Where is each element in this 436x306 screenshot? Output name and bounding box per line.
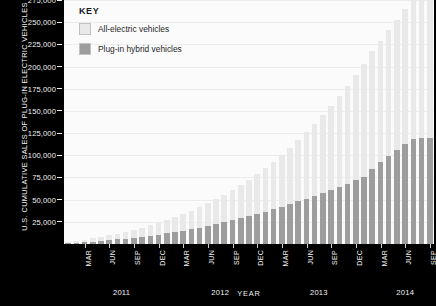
x-axis-tick-label: SEP (133, 250, 140, 265)
legend: KEY All-electric vehicles Plug-in hybrid… (75, 2, 182, 63)
y-axis-tick-mark (57, 221, 62, 222)
bar-segment-plug-in-hybrid (337, 187, 343, 244)
y-axis-tick-label: 100,000 (28, 151, 56, 160)
bar-segment-all-electric (337, 96, 343, 187)
bar-segment-plug-in-hybrid (295, 201, 301, 244)
x-axis-tick-label: MAR (84, 250, 91, 266)
x-axis-tick-mark (405, 244, 406, 248)
bar-column (302, 0, 310, 244)
bar-segment-all-electric (312, 124, 318, 196)
bar-segment-plug-in-hybrid (205, 226, 211, 244)
x-axis-tick-label: SEP (331, 250, 338, 265)
y-axis-tick-label: 275,000 (28, 0, 56, 5)
bar-segment-all-electric (427, 0, 433, 138)
x-axis-tick-label: JUN (207, 250, 214, 265)
bar-column (253, 0, 261, 244)
bar-segment-all-electric (197, 207, 203, 227)
y-axis-tick-mark (57, 66, 62, 67)
bar-segment-plug-in-hybrid (353, 180, 359, 244)
bar-segment-all-electric (304, 132, 310, 198)
bar-segment-plug-in-hybrid (320, 193, 326, 244)
bar-segment-plug-in-hybrid (345, 184, 351, 244)
bar-segment-plug-in-hybrid (271, 209, 277, 244)
bar-segment-plug-in-hybrid (394, 150, 400, 244)
bar-segment-all-electric (279, 155, 285, 207)
legend-title: KEY (79, 6, 182, 16)
bar-column (360, 0, 368, 244)
x-axis-tick-mark (134, 244, 135, 248)
bar-segment-all-electric (164, 220, 170, 233)
legend-swatch-icon-all-electric (79, 23, 91, 35)
y-axis-tick-mark (57, 110, 62, 111)
bar-segment-plug-in-hybrid (221, 222, 227, 244)
bar-segment-plug-in-hybrid (139, 237, 145, 244)
y-axis-ticks: 275,000250,000225,000200,000175,000150,0… (0, 0, 64, 306)
x-axis-tick-mark (430, 244, 431, 248)
bar-segment-plug-in-hybrid (312, 196, 318, 244)
x-axis-tick-label: DEC (257, 250, 264, 266)
y-axis-tick-label: 175,000 (28, 84, 56, 93)
x-axis-tick-mark (307, 244, 308, 248)
bar-column (261, 0, 269, 244)
bar-column (417, 0, 425, 244)
bar-column (220, 0, 228, 244)
bar-column (401, 0, 409, 244)
bar-segment-all-electric (213, 199, 219, 224)
x-axis-tick-label: MAR (281, 250, 288, 266)
x-axis-tick-mark (159, 244, 160, 248)
bar-column (245, 0, 253, 244)
bar-segment-all-electric (254, 174, 260, 214)
bar-segment-all-electric (402, 9, 408, 144)
bar-segment-all-electric (131, 230, 137, 238)
y-axis-tick-label: 25,000 (32, 217, 56, 226)
x-axis-title: YEAR (64, 289, 434, 298)
bar-segment-plug-in-hybrid (246, 216, 252, 244)
bar-column (343, 0, 351, 244)
bar-column (319, 0, 327, 244)
bar-column (368, 0, 376, 244)
bar-segment-all-electric (189, 211, 195, 229)
bar-segment-all-electric (156, 223, 162, 235)
bar-segment-plug-in-hybrid (156, 235, 162, 244)
bar-column (426, 0, 434, 244)
x-axis-tick-mark (109, 244, 110, 248)
y-axis-tick-mark (57, 22, 62, 23)
x-axis-tick-label: DEC (158, 250, 165, 266)
x-axis-tick-mark (282, 244, 283, 248)
x-axis-tick-label: MAR (183, 250, 190, 266)
x-axis-tick-label: SEP (232, 250, 239, 265)
bar-segment-all-electric (320, 115, 326, 193)
bar-column (278, 0, 286, 244)
bar-column (196, 0, 204, 244)
bar-segment-all-electric (295, 140, 301, 201)
bar-segment-plug-in-hybrid (189, 229, 195, 244)
bar-column (327, 0, 335, 244)
x-axis-tick-mark (331, 244, 332, 248)
bar-column (228, 0, 236, 244)
bar-column (294, 0, 302, 244)
bar-segment-plug-in-hybrid (263, 212, 269, 244)
legend-label-all-electric: All-electric vehicles (98, 24, 169, 34)
y-axis-tick-label: 200,000 (28, 62, 56, 71)
bar-segment-plug-in-hybrid (328, 190, 334, 244)
bar-segment-all-electric (394, 20, 400, 150)
y-axis-tick-mark (57, 88, 62, 89)
y-axis-tick-label: 225,000 (28, 40, 56, 49)
bar-segment-plug-in-hybrid (419, 138, 425, 244)
bar-segment-plug-in-hybrid (279, 207, 285, 244)
legend-item-all-electric: All-electric vehicles (79, 23, 182, 35)
bar-segment-all-electric (386, 30, 392, 156)
x-axis-tick-mark (381, 244, 382, 248)
x-axis-tick-label: MAR (380, 250, 387, 266)
bar-column (352, 0, 360, 244)
bar-segment-plug-in-hybrid (254, 214, 260, 244)
bar-segment-all-electric (411, 0, 417, 139)
bar-segment-all-electric (123, 232, 129, 239)
bar-column (286, 0, 294, 244)
bar-segment-plug-in-hybrid (378, 162, 384, 244)
x-axis-tick-label: JUN (109, 250, 116, 265)
bar-segment-all-electric (287, 148, 293, 204)
x-axis-tick-mark (208, 244, 209, 248)
y-axis-tick-label: 150,000 (28, 106, 56, 115)
bar-segment-plug-in-hybrid (180, 231, 186, 244)
